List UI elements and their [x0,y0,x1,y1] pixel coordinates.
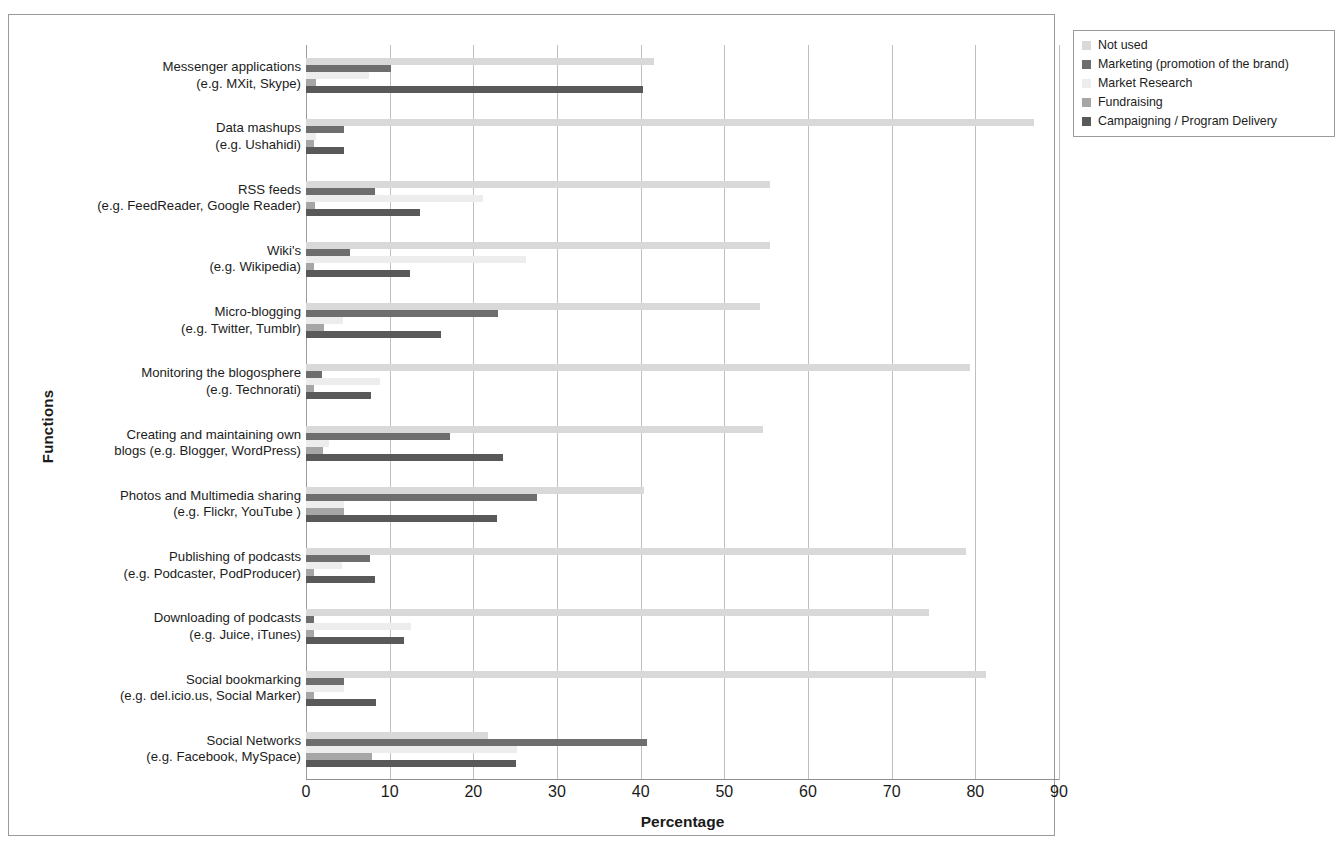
bar [306,317,343,324]
bar-group [306,168,1059,229]
chart-frame: Functions Messenger applications(e.g. MX… [8,14,1055,836]
bar [306,303,760,310]
x-tick-label: 0 [302,783,311,801]
legend-label: Campaigning / Program Delivery [1098,114,1277,128]
bar-group [306,229,1059,290]
category-label-line: Social Networks [69,733,301,750]
bar [306,256,526,263]
bar [306,364,970,371]
category-label: Social Networks(e.g. Facebook, MySpace) [69,733,301,766]
legend-swatch-icon [1082,117,1091,126]
category-label: RSS feeds(e.g. FeedReader, Google Reader… [69,182,301,215]
category-label: Data mashups(e.g. Ushahidi) [69,120,301,153]
category-label-line: Social bookmarking [69,672,301,689]
category-label-line: Photos and Multimedia sharing [69,488,301,505]
x-tick-label: 30 [548,783,566,801]
bar [306,263,314,270]
bar-group [306,351,1059,412]
legend-item[interactable]: Fundraising [1082,95,1326,109]
bar [306,692,314,699]
legend-label: Not used [1098,38,1148,52]
legend-swatch-icon [1082,41,1091,50]
bar [306,494,537,501]
category-label-line: (e.g. Twitter, Tumblr) [69,321,301,338]
y-axis-title: Functions [31,15,65,837]
category-label-line: (e.g. FeedReader, Google Reader) [69,198,301,215]
legend-label: Market Research [1098,76,1192,90]
legend: Not usedMarketing (promotion of the bran… [1073,30,1335,137]
bar [306,447,323,454]
category-label-line: (e.g. Ushahidi) [69,137,301,154]
bar [306,562,342,569]
x-tick-label: 90 [1050,783,1068,801]
category-label: Downloading of podcasts(e.g. Juice, iTun… [69,610,301,643]
category-label-line: Monitoring the blogosphere [69,365,301,382]
legend-item[interactable]: Market Research [1082,76,1326,90]
x-tick-label: 80 [966,783,984,801]
category-label-line: (e.g. Podcaster, PodProducer) [69,566,301,583]
x-tick-label: 70 [883,783,901,801]
bar-group [306,413,1059,474]
x-axis-ticks: 0102030405060708090 [306,783,1059,807]
bar [306,181,770,188]
bar [306,623,411,630]
legend-item[interactable]: Campaigning / Program Delivery [1082,114,1326,128]
x-tick-label: 40 [632,783,650,801]
bar-group [306,106,1059,167]
bar [306,732,488,739]
category-label-line: (e.g. Flickr, YouTube ) [69,504,301,521]
legend-swatch-icon [1082,60,1091,69]
category-label-line: blogs (e.g. Blogger, WordPress) [69,443,301,460]
bar [306,133,316,140]
category-label-line: Downloading of podcasts [69,610,301,627]
bar [306,609,929,616]
category-label-line: Data mashups [69,120,301,137]
bar [306,671,986,678]
bar [306,378,380,385]
bar [306,426,763,433]
x-tick-label: 50 [715,783,733,801]
chart-page: Functions Messenger applications(e.g. MX… [0,0,1342,851]
category-label: Photos and Multimedia sharing(e.g. Flick… [69,488,301,521]
category-label: Monitoring the blogosphere(e.g. Technora… [69,365,301,398]
plot-area [306,45,1059,780]
category-label-line: Messenger applications [69,59,301,76]
bar-group [306,719,1059,780]
bar [306,140,314,147]
bar [306,86,643,93]
bar [306,678,344,685]
bar [306,331,441,338]
bar-group [306,45,1059,106]
category-label-line: (e.g. Technorati) [69,382,301,399]
bar [306,569,314,576]
category-label: Wiki's(e.g. Wikipedia) [69,243,301,276]
category-label-line: (e.g. del.icio.us, Social Marker) [69,688,301,705]
category-label-line: Creating and maintaining own [69,427,301,444]
bar [306,392,371,399]
category-label: Creating and maintaining ownblogs (e.g. … [69,427,301,460]
category-labels: Messenger applications(e.g. MXit, Skype)… [69,45,301,780]
bar [306,699,376,706]
x-axis-line [306,779,1059,780]
bar [306,242,770,249]
x-tick-label: 10 [381,783,399,801]
bar [306,119,1034,126]
legend-item[interactable]: Not used [1082,38,1326,52]
bar [306,72,369,79]
bar [306,576,375,583]
category-label-line: Wiki's [69,243,301,260]
legend-item[interactable]: Marketing (promotion of the brand) [1082,57,1326,71]
x-axis-title: Percentage [306,813,1059,831]
bar [306,440,329,447]
bar [306,548,966,555]
bar [306,616,314,623]
legend-label: Fundraising [1098,95,1163,109]
bar [306,739,647,746]
category-label-line: (e.g. Wikipedia) [69,259,301,276]
y-axis-title-text: Functions [40,389,57,462]
bar-group [306,596,1059,657]
bar [306,515,497,522]
bar [306,270,410,277]
bar [306,753,372,760]
bar [306,58,654,65]
